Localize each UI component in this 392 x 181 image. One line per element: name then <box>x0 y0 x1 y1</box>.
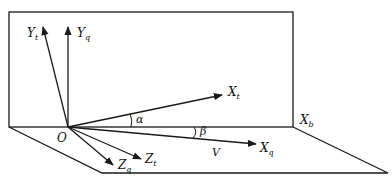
angle-alpha-arc <box>130 114 132 127</box>
label-xb: Xb <box>299 113 314 129</box>
axis-yt <box>43 27 68 127</box>
coordinate-frame-diagram: Yt Yq Xt Xq Zq Zt Xb O α β V <box>0 0 392 181</box>
label-velocity: V <box>212 146 221 159</box>
axis-xq <box>68 127 256 144</box>
label-zt: Zt <box>144 152 157 168</box>
label-zq: Zq <box>117 158 131 174</box>
angle-beta-arc <box>193 127 196 138</box>
label-yq: Yq <box>77 26 90 42</box>
axis-xt <box>68 95 222 127</box>
label-xq: Xq <box>259 141 274 157</box>
label-yt: Yt <box>27 26 39 42</box>
label-beta: β <box>199 125 206 138</box>
label-xt: Xt <box>227 85 241 101</box>
label-origin: O <box>57 131 67 145</box>
label-alpha: α <box>136 113 144 126</box>
axis-zt <box>68 127 141 159</box>
